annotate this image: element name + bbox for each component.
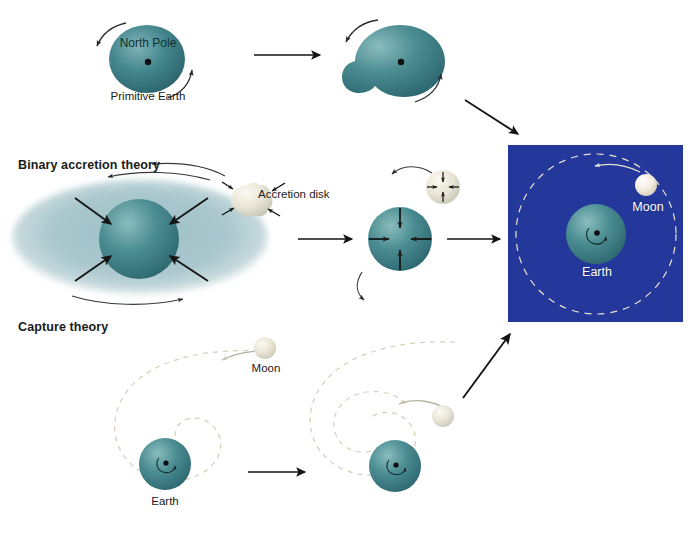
arrow-capture-to-result [463,334,510,398]
row-fission-stage-2 [342,20,445,102]
capture-moon-right [432,405,454,427]
moon-origin-diagram: North Pole Primitive Earth Binary accret… [0,0,690,547]
result-moon [635,174,657,196]
capture-direction-arrow-left [222,351,258,360]
capture-moon-label: Moon [252,362,281,374]
accretion-disk-label: Accretion disk [258,188,330,200]
row-accretion-stage-2 [357,167,460,300]
capture-moon-left [254,337,276,359]
north-pole-label: North Pole [120,36,177,50]
disk-rotation-arc-top [108,172,210,180]
capture-theory-heading: Capture theory [18,320,108,334]
binary-accretion-theory-heading: Binary accretion theory [18,158,160,172]
deforming-earth-shape [342,25,445,97]
north-pole-dot-2 [398,59,404,65]
result-earth-label: Earth [582,265,612,279]
clump-orbit-arc [152,164,225,177]
result-moon-label: Moon [632,200,663,214]
row-capture-stage-1 [115,337,276,490]
proto-earth-sphere [99,199,179,279]
disk-rotation-arc-bottom [72,296,183,304]
accretion-disk-group [12,164,285,305]
row-capture-stage-2 [310,342,455,492]
north-pole-dot [145,59,151,65]
moon-orbit-arc-top [392,167,432,174]
result-panel-group [508,145,683,322]
capture-earth-label: Earth [151,495,179,507]
row-fission-stage-1 [97,23,192,98]
primitive-earth-label: Primitive Earth [111,90,186,102]
earth-rotation-arc [357,272,364,300]
arrow-fission-to-result [465,100,518,134]
